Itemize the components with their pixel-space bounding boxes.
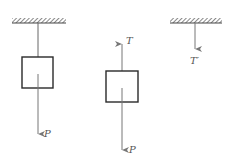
panel-hanging-block: P: [12, 18, 66, 139]
weight-label: P: [128, 144, 136, 155]
tension-label: T: [126, 35, 134, 46]
panel-support-reaction: T′: [170, 18, 222, 66]
weight-label: P: [43, 128, 51, 139]
ceiling-support: [12, 18, 66, 23]
ceiling-support: [170, 18, 222, 23]
panel-block-free-body: T P: [106, 35, 138, 155]
reaction-label: T′: [190, 55, 200, 66]
free-body-diagram: P T P T′: [0, 0, 232, 165]
